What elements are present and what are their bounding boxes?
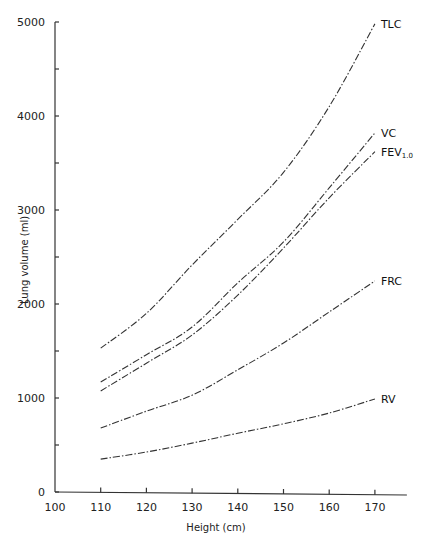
y-tick-label: 5000 [17, 16, 45, 29]
x-axis-title: Height (cm) [186, 522, 245, 533]
series-label-rv: RV [381, 393, 396, 406]
y-tick-label: 1000 [17, 392, 45, 405]
series-label-frc: FRC [381, 275, 402, 288]
x-tick-label: 130 [182, 501, 203, 514]
series-labels: TLCVCFEV1.0FRCRV [380, 18, 413, 406]
series-lines [101, 24, 375, 459]
x-tick-label: 170 [364, 501, 385, 514]
y-axis-title: Lung volume (ml) [19, 216, 30, 304]
y-tick-label: 0 [38, 486, 45, 499]
series-line-frc [101, 281, 375, 428]
series-label-vc: VC [381, 127, 397, 140]
y-tick-label: 4000 [17, 110, 45, 123]
x-tick-label: 120 [136, 501, 157, 514]
series-line-rv [101, 399, 375, 459]
series-line-tlc [101, 24, 375, 348]
series-label-tlc: TLC [380, 18, 402, 31]
series-line-fev10 [101, 152, 375, 391]
y-tick-label: 3000 [17, 204, 45, 217]
x-axis [55, 492, 407, 495]
x-tick-label: 140 [227, 501, 248, 514]
lung-volume-chart: 0100020003000400050001001101201301401501… [0, 0, 421, 542]
series-line-vc [101, 133, 375, 382]
x-tick-label: 110 [90, 501, 111, 514]
x-tick-label: 150 [273, 501, 294, 514]
x-tick-label: 100 [45, 501, 66, 514]
x-tick-label: 160 [319, 501, 340, 514]
series-label-fev10: FEV1.0 [381, 146, 413, 160]
